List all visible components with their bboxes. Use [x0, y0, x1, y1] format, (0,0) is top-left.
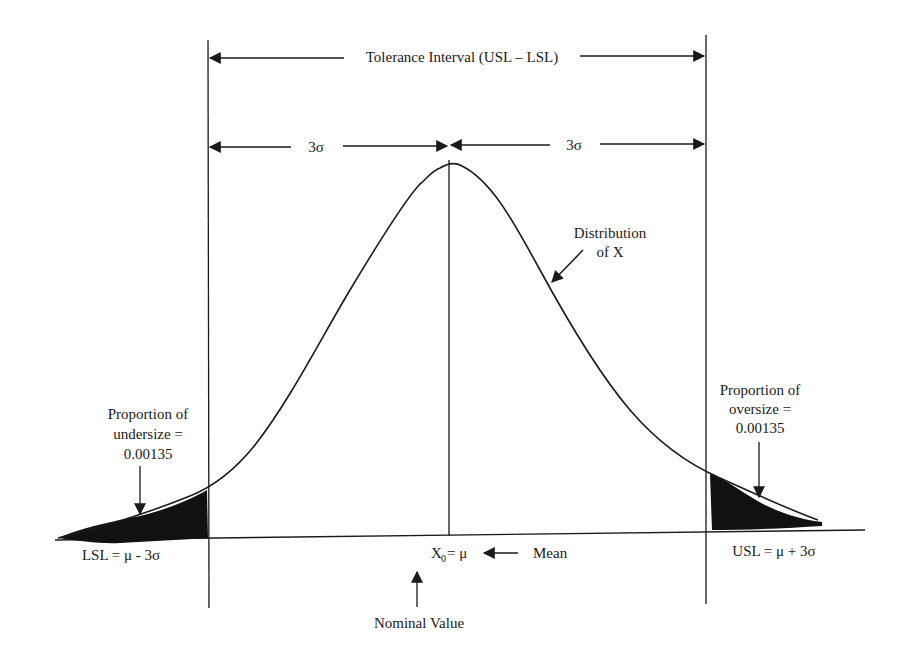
distribution-label-line1: Distribution [574, 225, 647, 241]
distribution-pointer-arrow [552, 250, 583, 282]
usl-label: USL = μ + 3σ [732, 543, 815, 559]
oversize-label-line2: oversize = [729, 401, 791, 417]
nominal-value-label: Nominal Value [374, 615, 464, 631]
undersize-label-line2: undersize = [113, 426, 183, 442]
right-3sigma-label: 3σ [566, 137, 582, 153]
normal-distribution-tolerance-diagram: Tolerance Interval (USL – LSL) 3σ 3σ Dis… [0, 0, 908, 649]
distribution-curve [58, 164, 818, 538]
lsl-vertical-line [208, 40, 209, 608]
center-label-equals-mu: = μ [447, 545, 467, 561]
undersize-label-line3: 0.00135 [124, 446, 173, 462]
oversize-tail-region [710, 474, 822, 530]
tolerance-interval-label: Tolerance Interval (USL – LSL) [366, 49, 559, 66]
lsl-label: LSL = μ - 3σ [82, 547, 160, 563]
oversize-label-line1: Proportion of [720, 382, 800, 398]
center-label-subscript: 0 [441, 553, 446, 564]
distribution-label-line2: of X [596, 244, 623, 260]
undersize-label-line1: Proportion of [108, 406, 188, 422]
center-label: X 0 = μ [431, 545, 467, 564]
oversize-label-line3: 0.00135 [736, 420, 785, 436]
left-3sigma-label: 3σ [308, 139, 324, 155]
mean-label: Mean [533, 545, 568, 561]
